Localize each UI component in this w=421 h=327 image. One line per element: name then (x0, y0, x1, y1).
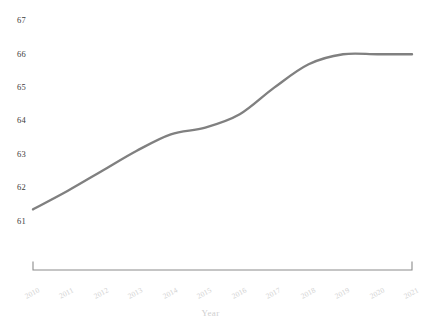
y-axis-tick-label: 67 (4, 15, 26, 25)
y-axis-tick-label: 61 (4, 216, 26, 226)
line-chart: 61626364656667 2010201120122013201420152… (0, 0, 421, 327)
plot-area (0, 0, 421, 327)
x-axis-bracket (33, 262, 412, 271)
y-axis-tick-label: 64 (4, 115, 26, 125)
y-axis-tick-label: 66 (4, 49, 26, 59)
y-axis-tick-label: 65 (4, 82, 26, 92)
x-axis-title: Year (0, 308, 421, 318)
y-axis-tick-label: 62 (4, 182, 26, 192)
y-axis-tick-label: 63 (4, 149, 26, 159)
data-series-line (33, 54, 412, 210)
